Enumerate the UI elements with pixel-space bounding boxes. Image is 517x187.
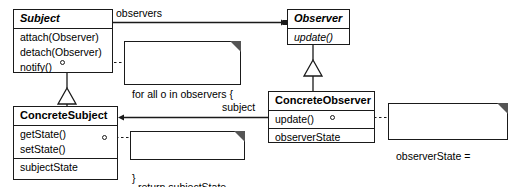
class-name-subject: Subject — [14, 10, 112, 29]
class-operations-subject: attach(Observer) detach(Observer) notify… — [14, 29, 112, 76]
attribute-observerstate: observerState — [275, 130, 368, 145]
operation-getstate: getState() — [20, 127, 111, 142]
uml-diagram-canvas: Subject attach(Observer) detach(Observer… — [0, 0, 517, 187]
class-box-observer[interactable]: Observer update() — [287, 9, 350, 45]
anchor-dot-notify — [60, 60, 65, 65]
class-operations-concreteobserver: update() — [269, 111, 374, 129]
class-operations-observer: update() — [288, 29, 349, 46]
generalization-concreteobserver-observer — [304, 45, 322, 91]
operation-setstate: setState() — [20, 142, 111, 157]
class-name-observer: Observer — [288, 10, 349, 29]
note-update-line-1: observerState = — [396, 149, 501, 163]
class-name-concretesubject: ConcreteSubject — [14, 107, 117, 126]
class-box-concretesubject[interactable]: ConcreteSubject getState() setState() su… — [13, 106, 118, 180]
note-update[interactable]: observerState = subject->getState() — [388, 103, 508, 140]
class-attributes-concretesubject: subjectState — [14, 159, 117, 176]
class-name-concreteobserver: ConcreteObserver — [269, 92, 374, 111]
note-notify[interactable]: for all o in observers { o->update() } — [124, 41, 241, 85]
operation-update-concrete: update() — [275, 112, 368, 127]
operation-update: update() — [294, 30, 343, 45]
note-notify-line-1: for all o in observers { — [132, 87, 234, 101]
note-fold-icon — [497, 103, 508, 114]
note-getstate-line-1: return subjectState — [138, 180, 238, 187]
attribute-subjectstate: subjectState — [20, 160, 111, 175]
anchor-dot-update — [330, 115, 335, 120]
note-fold-icon — [234, 131, 245, 142]
association-subject-observer — [113, 20, 287, 26]
anchor-dot-getstate — [102, 135, 107, 140]
edge-label-subject: subject — [222, 101, 255, 114]
operation-attach: attach(Observer) — [20, 30, 106, 45]
class-attributes-concreteobserver: observerState — [269, 129, 374, 146]
edge-label-observers: observers — [116, 7, 162, 20]
class-operations-concretesubject: getState() setState() — [14, 126, 117, 159]
generalization-concretesubject-subject — [58, 73, 76, 106]
class-box-concreteobserver[interactable]: ConcreteObserver update() observerState — [268, 91, 375, 143]
operation-detach: detach(Observer) — [20, 45, 106, 60]
note-getstate[interactable]: return subjectState — [130, 131, 245, 160]
note-fold-icon — [230, 41, 241, 52]
